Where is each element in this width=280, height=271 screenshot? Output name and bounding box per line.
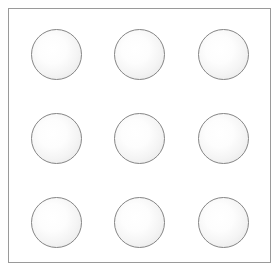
canvas — [0, 0, 280, 271]
circle-r2-c2 — [114, 113, 165, 164]
circle-r3-c1 — [31, 197, 82, 248]
circle-grid — [9, 9, 272, 264]
circle-r1-c2 — [114, 29, 165, 80]
circle-r3-c2 — [114, 197, 165, 248]
outer-frame — [8, 8, 271, 263]
circle-r1-c3 — [198, 29, 249, 80]
circle-r2-c1 — [31, 113, 82, 164]
circle-r3-c3 — [198, 197, 249, 248]
circle-r1-c1 — [31, 29, 82, 80]
circle-r2-c3 — [198, 113, 249, 164]
